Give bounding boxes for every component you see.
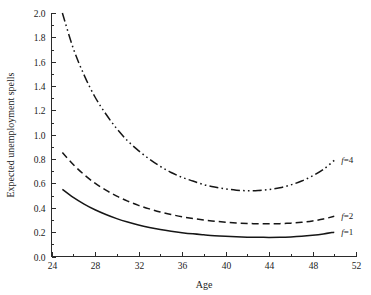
x-axis-ticks [53,252,357,257]
series-label-f2: f=2 [341,211,353,221]
series-label-value: =4 [344,155,354,165]
series-line-f1 [62,189,334,237]
y-tick-label: 0.6 [34,179,46,189]
x-tick-label: 48 [309,261,319,271]
x-tick-label: 28 [91,261,101,271]
series-label-value: =1 [344,227,354,237]
x-tick-label: 32 [135,261,145,271]
y-tick-label: 1.4 [34,82,46,92]
y-axis-title: Expected unemployment spells [5,72,16,197]
x-axis-tick-labels: 2428323640444852 [48,261,362,271]
series-curves [62,13,334,237]
x-axis-title: Age [196,279,213,290]
series-line-f4 [62,13,334,191]
y-tick-label: 0.8 [34,155,46,165]
y-tick-label: 0.0 [34,253,46,263]
series-inline-labels: f=4f=2f=1 [341,155,354,237]
chart-figure: 0.00.20.40.60.81.01.21.41.61.82.0 242832… [0,0,371,295]
x-tick-label: 52 [352,261,362,271]
series-label-f4: f=4 [341,155,354,165]
y-tick-label: 2.0 [34,9,46,19]
y-tick-label: 1.6 [34,58,46,68]
x-tick-label: 44 [265,261,275,271]
x-tick-label: 24 [48,261,58,271]
chart-canvas: 0.00.20.40.60.81.01.21.41.61.82.0 242832… [0,0,371,295]
y-tick-label: 0.2 [34,228,46,238]
y-axis-group: 0.00.20.40.60.81.01.21.41.61.82.0 [34,9,56,263]
y-tick-label: 1.0 [34,131,46,141]
series-label-f1: f=1 [341,227,353,237]
x-tick-label: 36 [178,261,188,271]
y-tick-label: 1.8 [34,33,46,43]
x-axis-group: 2428323640444852 [48,252,362,271]
y-axis-tick-labels: 0.00.20.40.60.81.01.21.41.61.82.0 [34,9,46,263]
y-tick-label: 1.2 [34,106,46,116]
series-label-value: =2 [344,211,354,221]
y-axis-ticks [52,14,56,258]
y-tick-label: 0.4 [34,204,46,214]
x-tick-label: 40 [222,261,232,271]
